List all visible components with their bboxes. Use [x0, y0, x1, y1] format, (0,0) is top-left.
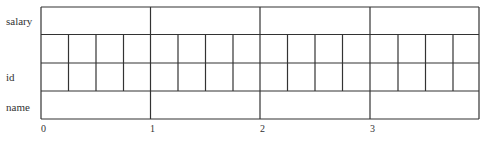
grid-lines — [0, 0, 485, 142]
